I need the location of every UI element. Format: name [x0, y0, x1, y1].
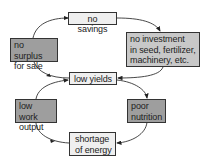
node-label-line: shortage [75, 134, 112, 145]
arrow-nutrition-to-shortage [117, 122, 147, 143]
node-shortage-of-energy: shortage of energy [69, 132, 116, 156]
node-no-surplus: no surplus for sale [10, 38, 58, 62]
node-no-investment: no investment in seed, fertilizer, machi… [126, 32, 200, 67]
node-no-savings: no savings [68, 12, 117, 25]
node-label: no savings [78, 14, 108, 34]
node-label-line: poor [131, 101, 162, 112]
arrow-yields-to-nutrition [117, 80, 147, 98]
arrow-surplus-to-savings [33, 18, 68, 38]
node-label-line: for sale [14, 61, 54, 72]
node-label-line: nutrition [131, 112, 162, 123]
node-label-line: no investment [130, 34, 196, 45]
node-label-line: output [19, 122, 53, 133]
arrow-output-to-yields [36, 80, 68, 99]
node-label-line: in seed, fertilizer, [130, 45, 196, 56]
node-label-line: of energy [75, 145, 112, 156]
node-low-yields: low yields [69, 72, 117, 85]
node-label-line: no surplus [14, 40, 54, 61]
node-label-line: low work [19, 101, 53, 122]
node-poor-nutrition: poor nutrition [127, 99, 166, 123]
node-label-line: machinery, etc. [130, 55, 196, 66]
arrow-yields-to-surplus-head [40, 73, 68, 78]
arrow-investment-to-yields [118, 67, 163, 78]
arrow-savings-to-investment [117, 18, 160, 31]
node-label: low yields [74, 74, 112, 84]
node-low-work-output: low work output [15, 99, 57, 123]
